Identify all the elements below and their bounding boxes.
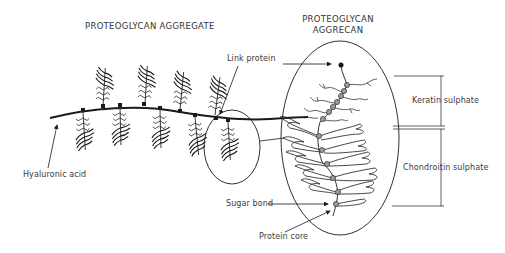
label-link-protein: Link protein <box>227 54 276 63</box>
proteoglycan-diagram <box>0 0 505 253</box>
chondroitin-sulphate-chains <box>280 117 377 206</box>
aggrecan-title-line2: AGGRECAN <box>297 24 379 36</box>
label-hyaluronic-acid: Hyaluronic acid <box>23 170 86 179</box>
label-chondroitin-sulphate: Chondroitin sulphate <box>403 163 488 172</box>
label-keratin-sulphate: Keratin sulphate <box>412 96 479 105</box>
lower-monomers <box>72 106 241 161</box>
magnify-connector <box>260 138 284 141</box>
keratin-sulphate-chains <box>304 79 377 121</box>
label-protein-core: Protein core <box>259 232 308 241</box>
aggregate-title: PROTEOGLYCAN AGGREGATE <box>85 20 215 32</box>
label-sugar-bond: Sugar bond <box>226 199 273 208</box>
link-protein-dots <box>81 102 230 122</box>
